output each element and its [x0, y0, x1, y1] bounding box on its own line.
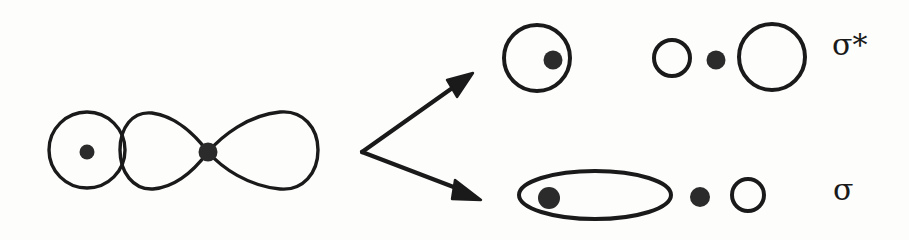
sigma-star-label: σ*	[832, 30, 867, 60]
p-orbital-right-lobe	[208, 112, 318, 189]
arrow-to-bonding-head	[452, 180, 481, 200]
p-orbital-left-lobe	[120, 113, 208, 189]
bonding-small-circle	[732, 179, 764, 211]
antibonding-small-circle	[654, 40, 690, 76]
antibonding-right-circle	[739, 24, 805, 90]
antibonding-left-nucleus-dot	[544, 51, 563, 70]
bonding-right-nucleus-dot	[690, 187, 710, 207]
antibonding-middle-nucleus-dot	[707, 51, 726, 70]
arrow-to-antibonding-head	[447, 73, 473, 97]
arrow-to-antibonding-shaft	[362, 84, 458, 152]
bonding-left-nucleus-dot	[538, 187, 560, 209]
reactant-group	[49, 112, 318, 189]
bonding-orbital-group	[519, 171, 764, 219]
diagram-canvas	[0, 0, 909, 240]
antibonding-orbital-group	[504, 24, 805, 91]
arrow-group	[362, 73, 481, 200]
sigma-label: σ	[833, 175, 853, 205]
orbital-diagram-figure: σ* σ	[0, 0, 909, 240]
arrow-to-bonding-shaft	[362, 152, 464, 191]
p-orbital-nucleus-dot	[199, 143, 218, 162]
s-orbital-nucleus-dot	[80, 145, 95, 160]
